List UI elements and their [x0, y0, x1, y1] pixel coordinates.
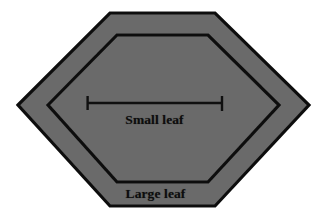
small-leaf-label: Small leaf — [0, 112, 319, 127]
leaf-diagram-figure: Small leaf Large leaf — [0, 0, 329, 219]
large-leaf-label: Large leaf — [0, 186, 320, 201]
